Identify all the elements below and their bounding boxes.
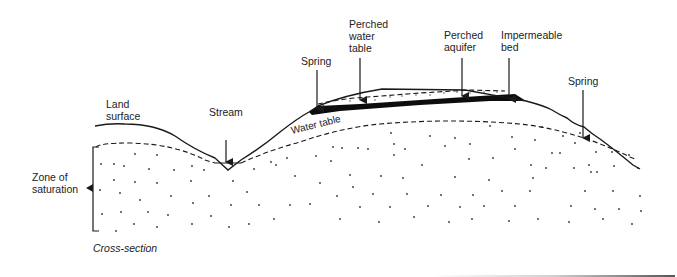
spring-right-label: Spring xyxy=(568,75,598,87)
water-table-label: Water table xyxy=(290,113,342,136)
groundwater-cross-section-diagram: Water table xyxy=(0,0,677,277)
bracket-pointer-icon xyxy=(86,184,93,192)
perched-water-table-label: Perched water table xyxy=(349,18,388,54)
water-table-line xyxy=(96,121,635,163)
land-surface-label: Land surface xyxy=(106,98,140,122)
impermeable-bed xyxy=(309,94,526,115)
perched-aquifer-label: Perched aquifer xyxy=(444,29,483,53)
land-surface-line xyxy=(95,89,640,170)
cross-section-caption: Cross-section xyxy=(93,242,157,254)
spring-left-label: Spring xyxy=(301,55,331,67)
stream-label: Stream xyxy=(209,106,243,118)
saturation-zone-dots xyxy=(99,125,642,232)
impermeable-bed-label: Impermeable bed xyxy=(501,29,562,53)
zone-of-saturation-label: Zone of saturation xyxy=(32,171,78,195)
zone-of-saturation-bracket xyxy=(93,147,99,231)
